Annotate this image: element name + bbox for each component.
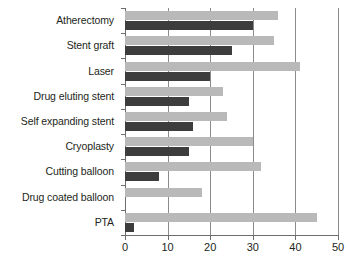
bar-light-gray-series-0: [125, 11, 278, 20]
bar-group: [125, 185, 338, 210]
bar-light-gray-series-5: [125, 137, 253, 146]
tick-mark-50: [338, 235, 339, 240]
category-label-cell: Cutting balloon: [0, 159, 119, 184]
category-label-cell: Atherectomy: [0, 8, 119, 33]
category-label-cell: PTA: [0, 210, 119, 235]
bar-group: [125, 159, 338, 184]
bars-layer: [125, 8, 338, 235]
tick-mark-40: [295, 235, 296, 240]
bar-dark-gray-series-0: [125, 21, 253, 30]
bar-dark-gray-series-2: [125, 72, 210, 81]
tick-label-10: 10: [161, 241, 173, 253]
bar-group: [125, 8, 338, 33]
tick-label-0: 0: [122, 241, 128, 253]
bar-group: [125, 210, 338, 235]
bar-group: [125, 134, 338, 159]
bar-dark-gray-series-5: [125, 147, 189, 156]
tick-label-30: 30: [247, 241, 259, 253]
bar-light-gray-series-4: [125, 112, 227, 121]
bar-group: [125, 33, 338, 58]
category-label-drug-eluting-stent: Drug eluting stent: [34, 91, 115, 102]
category-label-atherectomy: Atherectomy: [56, 15, 114, 26]
bar-light-gray-series-6: [125, 162, 261, 171]
category-label-pta: PTA: [95, 217, 114, 228]
bar-dark-gray-series-8: [125, 223, 134, 232]
bar-light-gray-series-8: [125, 213, 317, 222]
plot-area: [125, 8, 338, 235]
gridline-50: [338, 8, 339, 235]
category-tick-9: [121, 235, 125, 236]
bar-group: [125, 84, 338, 109]
category-label-cell: Cryoplasty: [0, 134, 119, 159]
bar-light-gray-series-1: [125, 36, 274, 45]
tick-label-20: 20: [204, 241, 216, 253]
bar-light-gray-series-2: [125, 62, 300, 71]
category-label-laser: Laser: [88, 66, 114, 77]
category-label-stent-graft: Stent graft: [67, 40, 114, 51]
bar-light-gray-series-3: [125, 87, 223, 96]
category-label-drug-coated-balloon: Drug coated balloon: [22, 192, 114, 203]
category-label-self-expanding-stent: Self expanding stent: [21, 116, 114, 127]
category-label-cryoplasty: Cryoplasty: [65, 141, 114, 152]
bar-light-gray-series-7: [125, 188, 202, 197]
bar-dark-gray-series-3: [125, 97, 189, 106]
bar-dark-gray-series-6: [125, 172, 159, 181]
category-label-cell: Drug eluting stent: [0, 84, 119, 109]
tick-label-40: 40: [289, 241, 301, 253]
horizontal-bar-chart: Atherectomy Stent graft Laser Drug eluti…: [0, 0, 350, 262]
tick-mark-20: [210, 235, 211, 240]
value-axis-line: [125, 235, 338, 236]
tick-label-50: 50: [332, 241, 344, 253]
category-label-cell: Self expanding stent: [0, 109, 119, 134]
tick-mark-30: [253, 235, 254, 240]
category-label-cell: Stent graft: [0, 33, 119, 58]
bar-group: [125, 109, 338, 134]
bar-dark-gray-series-4: [125, 122, 193, 131]
category-axis: Atherectomy Stent graft Laser Drug eluti…: [0, 8, 119, 235]
category-label-cell: Drug coated balloon: [0, 185, 119, 210]
bar-group: [125, 58, 338, 83]
category-label-cell: Laser: [0, 58, 119, 83]
category-label-cutting-balloon: Cutting balloon: [45, 166, 114, 177]
tick-mark-0: [125, 235, 126, 240]
bar-dark-gray-series-1: [125, 46, 232, 55]
tick-mark-10: [168, 235, 169, 240]
